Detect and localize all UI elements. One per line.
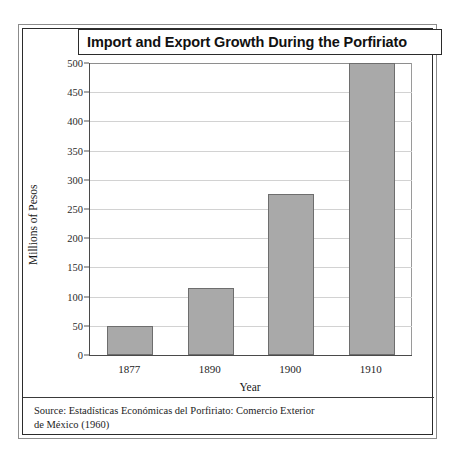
x-axis-tick-label: 1910 bbox=[331, 363, 412, 375]
y-axis-tick-label: 150 bbox=[67, 262, 83, 273]
bar-1890 bbox=[188, 288, 234, 355]
x-axis-tick-label: 1900 bbox=[250, 363, 331, 375]
bar-1877 bbox=[107, 326, 153, 355]
x-axis-tick-label: 1877 bbox=[89, 363, 170, 375]
chart-title-banner: Import and Export Growth During the Porf… bbox=[78, 29, 442, 55]
bar-slot bbox=[171, 63, 252, 355]
bar-slot bbox=[90, 63, 171, 355]
figure-inner-frame: Import and Export Growth During the Porf… bbox=[22, 28, 433, 435]
bar-1900 bbox=[268, 194, 314, 355]
bar-1910 bbox=[349, 63, 395, 355]
y-axis-tick-label: 300 bbox=[67, 174, 83, 185]
source-divider bbox=[23, 397, 434, 398]
y-axis-tick-label: 100 bbox=[67, 291, 83, 302]
y-axis-tick-label: 50 bbox=[73, 320, 84, 331]
bar-slot bbox=[332, 63, 413, 355]
y-axis-tick-label: 250 bbox=[67, 204, 83, 215]
bar-slot bbox=[251, 63, 332, 355]
source-note: Source: Estadísticas Económicas del Porf… bbox=[34, 404, 414, 432]
y-axis-tick-label: 200 bbox=[67, 233, 83, 244]
x-axis-tick-label: 1890 bbox=[170, 363, 251, 375]
page-title: Import and Export Growth During the Porf… bbox=[79, 34, 407, 50]
source-line-1: Source: Estadísticas Económicas del Porf… bbox=[34, 404, 414, 418]
y-axis-tick-label: 450 bbox=[67, 87, 83, 98]
plot-area-wrapper: Millions of Pesos 0501001502002503003504… bbox=[23, 55, 434, 395]
running-page-header: THE PORFIRIATO'S GREAT LEAP FORWARD bbox=[0, 0, 453, 2]
x-axis-tick-labels: 1877189019001910 bbox=[89, 363, 411, 375]
bar-series bbox=[90, 63, 412, 355]
y-axis-tick-labels: 050100150200250300350400450500 bbox=[47, 63, 89, 355]
x-axis-title: Year bbox=[89, 381, 411, 393]
plot-canvas bbox=[89, 63, 412, 356]
y-axis-tick-label: 400 bbox=[67, 116, 83, 127]
y-axis-title: Millions of Pesos bbox=[27, 160, 43, 290]
y-axis-tick-label: 500 bbox=[67, 58, 83, 69]
y-axis-tick-label: 0 bbox=[78, 350, 83, 361]
figure-outer-frame: Import and Export Growth During the Porf… bbox=[18, 24, 437, 439]
source-line-2: de México (1960) bbox=[34, 418, 414, 432]
y-axis-tick-label: 350 bbox=[67, 145, 83, 156]
